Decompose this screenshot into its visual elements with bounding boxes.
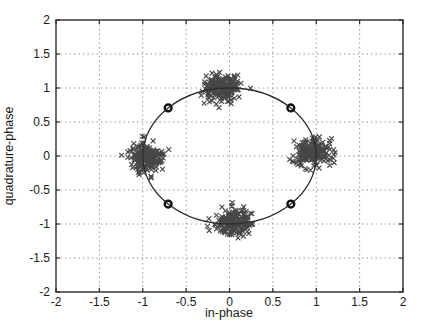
x-markers: [287, 135, 337, 173]
x-tick-label: 1.5: [351, 295, 368, 309]
tick-labels-layer: -2-1.5-1-0.500.511.52-2-1.5-1-0.500.511.…: [29, 13, 406, 309]
x-markers: [205, 200, 255, 240]
symbol-cluster-bottom: [205, 200, 255, 240]
y-tick-label: -1: [39, 217, 50, 231]
y-tick-label: 0.5: [33, 115, 50, 129]
x-tick-label: -2: [51, 295, 62, 309]
y-tick-label: 2: [43, 13, 50, 27]
x-markers: [199, 70, 253, 110]
y-tick-label: -1.5: [29, 251, 50, 265]
y-tick-label: -2: [39, 285, 50, 299]
symbol-cluster-right: [287, 135, 337, 173]
x-tick-label: -1: [137, 295, 148, 309]
y-tick-label: 1: [43, 81, 50, 95]
scatter-plot-canvas: -2-1.5-1-0.500.511.52-2-1.5-1-0.500.511.…: [0, 0, 427, 334]
y-axis-label: quadrature-phase: [2, 107, 16, 206]
qpsk-constellation-figure: -2-1.5-1-0.500.511.52-2-1.5-1-0.500.511.…: [0, 0, 427, 334]
y-tick-label: -0.5: [29, 183, 50, 197]
x-tick-label: 0.5: [265, 295, 282, 309]
x-tick-label: -1.5: [89, 295, 110, 309]
y-tick-label: 1.5: [33, 47, 50, 61]
grid-layer: [56, 20, 403, 292]
y-tick-label: 0: [43, 149, 50, 163]
x-tick-label: 1: [313, 295, 320, 309]
x-axis-label: in-phase: [205, 306, 253, 320]
symbol-clusters-layer: [119, 70, 337, 240]
x-tick-label: -0.5: [176, 295, 197, 309]
symbol-cluster-top: [199, 70, 253, 110]
x-tick-label: 2: [400, 295, 407, 309]
